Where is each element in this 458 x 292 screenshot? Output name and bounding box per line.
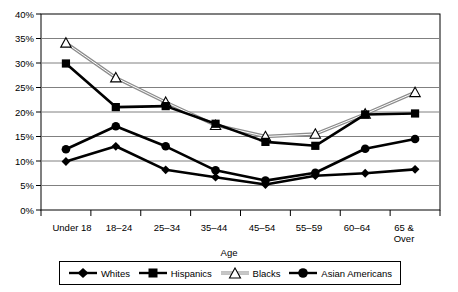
legend-entry-hispanics: Hispanics xyxy=(138,267,212,279)
chart-legend: Whites Hispanics Blacks xyxy=(59,261,401,285)
legend-entry-asian-americans: Asian Americans xyxy=(288,267,392,279)
legend-entry-blacks: Blacks xyxy=(220,267,281,279)
square-marker-icon xyxy=(138,267,168,279)
legend-label-hispanics: Hispanics xyxy=(171,268,212,279)
grid-lines xyxy=(41,39,440,186)
legend-label-asian-americans: Asian Americans xyxy=(321,268,392,279)
chart-plot-svg xyxy=(0,0,458,292)
legend-label-blacks: Blacks xyxy=(253,268,281,279)
legend-label-whites: Whites xyxy=(101,268,130,279)
legend-entry-whites: Whites xyxy=(68,267,130,279)
circle-marker-icon xyxy=(288,267,318,279)
chart-container: 40% 35% 30% 25% 20% 15% 10% 5% 0% Under … xyxy=(0,0,458,292)
diamond-marker-icon xyxy=(68,267,98,279)
series-layer xyxy=(61,38,421,189)
y-axis-ticks xyxy=(36,14,41,210)
x-axis-ticks xyxy=(41,210,440,216)
triangle-marker-icon xyxy=(220,267,250,279)
